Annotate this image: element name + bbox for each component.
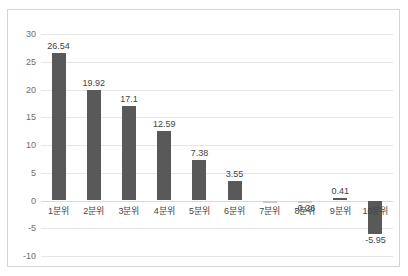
bar-slot: 7.38 <box>182 34 217 256</box>
clipped-title-text <box>26 0 29 3</box>
x-axis-tick-label: 4분위 <box>154 204 175 217</box>
bar-value-label: -5.95 <box>365 235 386 245</box>
bar-slot: 0.41 <box>323 34 358 256</box>
y-axis-tick-label: 20 <box>26 85 36 95</box>
x-axis-tick-label: 3분위 <box>118 204 139 217</box>
x-axis-tick-label: 9분위 <box>330 204 351 217</box>
bar-slot: -5.95 <box>358 34 393 256</box>
x-axis-tick-label: 10분위 <box>362 204 388 217</box>
y-axis-tick-label: -10 <box>23 251 36 261</box>
bar <box>52 53 66 200</box>
bar-slot: -0.26 <box>287 34 322 256</box>
x-axis-tick-label: 1분위 <box>48 204 69 217</box>
y-axis-tick-label: 30 <box>26 29 36 39</box>
y-axis-tick-label: 0 <box>31 196 36 206</box>
clipped-title-strip <box>0 0 408 8</box>
bar-slot: 19.92 <box>76 34 111 256</box>
chart-frame: 302520151050-5-10 26.5419.9217.112.597.3… <box>7 9 400 267</box>
plot-area: 302520151050-5-10 26.5419.9217.112.597.3… <box>41 34 393 256</box>
y-axis-tick-label: 10 <box>26 140 36 150</box>
x-axis-tick-label: 6분위 <box>224 204 245 217</box>
bar-value-label: 7.38 <box>191 148 209 158</box>
bar <box>87 90 101 201</box>
x-axis-tick-label: 7분위 <box>259 204 280 217</box>
bar <box>122 106 136 201</box>
bar-value-label: 19.92 <box>83 78 106 88</box>
bar-slot: 26.54 <box>41 34 76 256</box>
bar-slot: 12.59 <box>147 34 182 256</box>
bar <box>228 181 242 201</box>
bar <box>157 131 171 201</box>
y-axis-tick-label: 15 <box>26 112 36 122</box>
x-axis-tick-label: 8분위 <box>294 204 315 217</box>
y-axis-tick-label: 25 <box>26 57 36 67</box>
bar-slot <box>252 34 287 256</box>
x-axis-tick-label: 2분위 <box>83 204 104 217</box>
bar-value-label: 0.41 <box>331 186 349 196</box>
gridline <box>41 256 393 257</box>
bar-value-label: 12.59 <box>153 119 176 129</box>
bar-value-label: 3.55 <box>226 169 244 179</box>
y-axis-tick-label: 5 <box>31 168 36 178</box>
chart-screenshot: 302520151050-5-10 26.5419.9217.112.597.3… <box>0 0 408 276</box>
bar-value-label: 26.54 <box>47 41 70 51</box>
bar <box>333 198 347 200</box>
bar <box>192 160 206 201</box>
y-axis-tick-label: -5 <box>28 223 36 233</box>
bar-slot: 3.55 <box>217 34 252 256</box>
bar-slot: 17.1 <box>111 34 146 256</box>
bar-value-label: 17.1 <box>120 94 138 104</box>
bar-series: 26.5419.9217.112.597.383.55-0.260.41-5.9… <box>41 34 393 256</box>
x-axis-tick-label: 5분위 <box>189 204 210 217</box>
bar <box>263 201 277 203</box>
